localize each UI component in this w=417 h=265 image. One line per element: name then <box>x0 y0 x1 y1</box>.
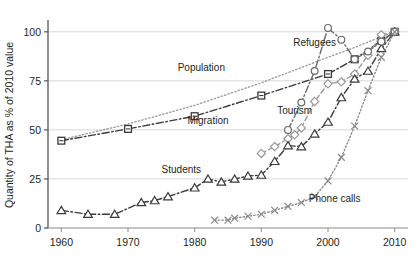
data-point <box>310 130 319 137</box>
series-label-tourism: Tourism <box>277 105 312 116</box>
data-point <box>325 24 332 31</box>
data-point <box>338 36 345 43</box>
series-line <box>215 32 395 220</box>
data-point <box>337 78 345 86</box>
x-tick-label-2000: 2000 <box>316 236 340 248</box>
x-tick-label-1980: 1980 <box>183 236 207 248</box>
y-axis-title-group: Quantity of THA as % of 2010 value <box>3 42 15 208</box>
data-point <box>271 142 279 150</box>
series-migration <box>58 28 398 144</box>
y-tick-label-100: 100 <box>23 26 41 38</box>
data-point <box>257 149 265 157</box>
data-point <box>364 67 373 74</box>
series-label-migration: Migration <box>187 115 228 126</box>
chart-container: 0255075100 196019701980199020002010 Popu… <box>0 0 417 265</box>
y-tick-labels-group: 0255075100 <box>23 26 41 234</box>
x-tick-labels-group: 196019701980199020002010 <box>50 236 407 248</box>
chart-canvas: 0255075100 196019701980199020002010 Popu… <box>0 0 417 265</box>
series-label-phone-calls: Phone calls <box>309 193 361 204</box>
x-tick-label-1990: 1990 <box>250 236 274 248</box>
y-tick-label-25: 25 <box>29 173 41 185</box>
series-label-students: Students <box>162 164 201 175</box>
x-tick-label-1970: 1970 <box>116 236 140 248</box>
y-axis-title: Quantity of THA as % of 2010 value <box>3 42 15 208</box>
data-point <box>378 38 385 45</box>
data-point <box>351 56 358 63</box>
data-point <box>365 48 372 55</box>
data-point <box>57 206 66 213</box>
data-point <box>190 184 199 191</box>
series-line <box>261 32 394 154</box>
y-tick-label-0: 0 <box>35 222 41 234</box>
x-tick-label-1960: 1960 <box>50 236 74 248</box>
data-point <box>311 68 318 75</box>
x-tick-label-2010: 2010 <box>383 236 407 248</box>
data-point <box>324 118 333 125</box>
y-tick-label-75: 75 <box>29 75 41 87</box>
series-label-population: Population <box>178 62 225 73</box>
y-tick-label-50: 50 <box>29 124 41 136</box>
data-point <box>285 127 292 134</box>
data-point <box>337 94 346 101</box>
line-chart-svg: 0255075100 196019701980199020002010 Popu… <box>0 0 417 265</box>
series-label-refugees: Refugees <box>293 37 336 48</box>
